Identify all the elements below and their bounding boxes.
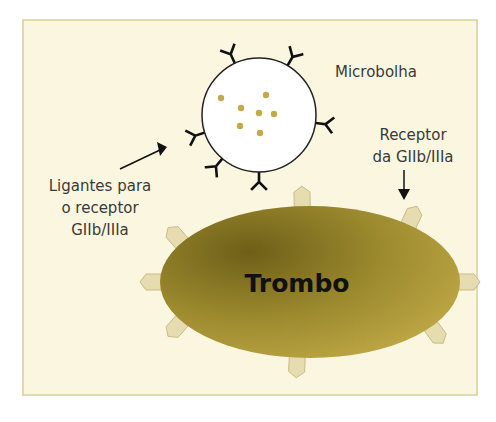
microbubble-particle [257,130,263,136]
microbubble-particle [218,95,224,101]
microbubble-particle [271,111,277,117]
receptor-label-line1: Receptor [379,126,447,144]
microbubble-thrombus-diagram: Trombo Microbolha Receptor da GIIb/IIIa … [0,0,496,422]
ligands-label-line2: o receptor [61,199,139,217]
thrombus-label: Trombo [245,269,350,298]
microbubble-particle [256,110,262,116]
ligands-label-line1: Ligantes para [49,177,152,195]
microbubble-label: Microbolha [335,63,417,81]
microbubble-particle [237,123,243,129]
ligands-label-line3: GIIb/IIIa [71,221,129,239]
receptor-label-line2: da GIIb/IIIa [373,148,454,166]
microbubble-particle [263,92,269,98]
microbubble-particle [238,105,244,111]
